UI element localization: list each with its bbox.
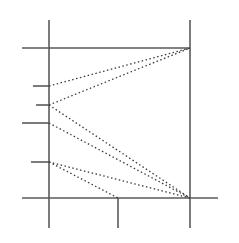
figure-background [0, 0, 239, 243]
figure-container [0, 0, 239, 243]
line-diagram [0, 0, 239, 243]
